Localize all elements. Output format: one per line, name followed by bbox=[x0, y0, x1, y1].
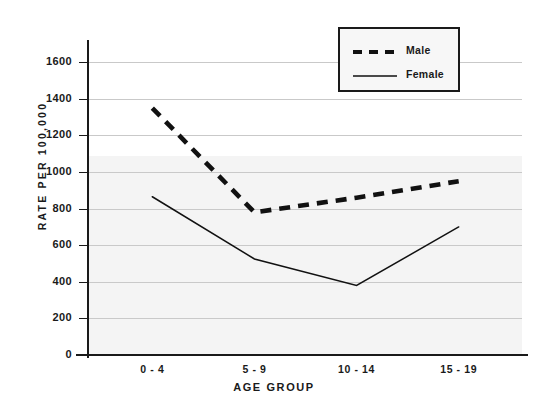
series-line-female bbox=[152, 197, 458, 286]
y-axis-tick bbox=[79, 209, 88, 210]
line-chart: 02004006008001000120014001600 0 - 45 - 9… bbox=[0, 0, 548, 408]
legend-entry-female: Female bbox=[340, 63, 458, 85]
legend-swatch-dashed bbox=[352, 44, 398, 56]
x-axis-tick-label: 5 - 9 bbox=[214, 363, 294, 375]
x-axis-tick-label: 15 - 19 bbox=[419, 363, 499, 375]
chart-legend: Male Female bbox=[338, 27, 460, 92]
y-axis-tick bbox=[79, 245, 88, 246]
x-axis-line bbox=[76, 354, 528, 356]
y-axis-tick bbox=[79, 318, 88, 319]
series-line-male bbox=[152, 108, 458, 212]
x-axis-tick-label: 0 - 4 bbox=[112, 363, 192, 375]
legend-label-male: Male bbox=[406, 44, 431, 56]
legend-entry-male: Male bbox=[340, 39, 458, 61]
x-axis-tick-label: 10 - 14 bbox=[317, 363, 397, 375]
y-axis-tick-label: 1600 bbox=[12, 55, 72, 67]
y-axis-line bbox=[87, 40, 89, 358]
y-axis-tick-label: 0 bbox=[12, 348, 72, 360]
x-axis-title: AGE GROUP bbox=[0, 381, 548, 393]
y-axis-title: RATE PER 100,000 bbox=[36, 76, 48, 256]
y-axis-tick bbox=[79, 172, 88, 173]
legend-swatch-solid bbox=[352, 68, 398, 80]
y-axis-tick bbox=[79, 62, 88, 63]
y-axis-tick bbox=[79, 135, 88, 136]
y-axis-tick bbox=[79, 355, 88, 356]
y-axis-tick bbox=[79, 282, 88, 283]
legend-label-female: Female bbox=[406, 68, 444, 80]
y-axis-tick bbox=[79, 99, 88, 100]
y-axis-tick-label: 400 bbox=[12, 275, 72, 287]
y-axis-tick-label: 200 bbox=[12, 311, 72, 323]
